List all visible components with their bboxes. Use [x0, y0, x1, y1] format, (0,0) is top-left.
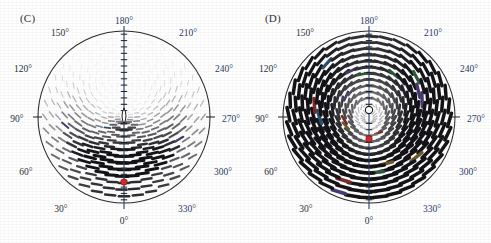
director-dash: [87, 166, 99, 169]
director-dash: [91, 92, 93, 96]
director-dash: [95, 137, 103, 139]
director-dash: [174, 114, 180, 119]
director-dash: [410, 86, 413, 98]
director-dash: [144, 101, 147, 104]
director-dash: [155, 64, 157, 68]
director-dash: [105, 146, 114, 147]
director-dash: [175, 137, 183, 142]
director-dash: [52, 155, 59, 159]
angle-tick-label: 60°: [19, 167, 33, 177]
director-dash: [105, 195, 115, 196]
polar-plot-c: 0°30°60°90°120°150°180°210°240°270°300°3…: [0, 0, 245, 243]
director-dash: [362, 113, 365, 116]
director-dash: [82, 121, 88, 125]
director-dash: [166, 124, 173, 128]
director-dash: [79, 160, 90, 163]
director-dash: [88, 51, 91, 55]
director-dash: [150, 142, 159, 144]
director-dash: [170, 176, 179, 179]
director-dash: [72, 54, 74, 58]
angle-tick-label: 270°: [467, 114, 485, 124]
director-dash: [130, 182, 140, 183]
director-dash: [179, 127, 186, 132]
director-dash: [59, 166, 67, 170]
director-dash: [49, 125, 54, 130]
polar-plot-d: 0°30°60°90°120°150°180°210°240°270°300°3…: [245, 0, 490, 243]
director-dash: [192, 92, 194, 97]
director-dash: [75, 121, 82, 126]
director-dash: [433, 89, 434, 103]
director-dash: [429, 99, 430, 113]
director-dash: [108, 155, 118, 156]
director-dash: [146, 191, 156, 193]
director-dash: [172, 61, 173, 66]
director-dash: [95, 98, 98, 102]
director-dash: [110, 51, 114, 53]
director-dash: [386, 106, 387, 114]
director-dash: [392, 104, 393, 113]
director-dash: [152, 127, 159, 130]
director-dash: [69, 124, 76, 129]
director-dash: [154, 106, 158, 109]
director-dash: [70, 66, 71, 71]
director-dash: [140, 157, 151, 159]
director-dash: [138, 85, 139, 89]
director-dash: [389, 99, 391, 107]
director-dash: [130, 106, 133, 107]
director-dash: [148, 133, 155, 135]
director-dash: [154, 120, 160, 123]
director-dash: [346, 104, 347, 113]
angle-tick-label: 30°: [54, 204, 68, 214]
director-dash: [379, 108, 380, 113]
angle-tick-label: 300°: [459, 167, 477, 177]
director-dash: [112, 109, 116, 110]
director-dash: [92, 162, 104, 164]
director-dash: [63, 64, 64, 69]
director-dash: [148, 94, 150, 98]
director-dash: [181, 81, 182, 86]
director-dash: [49, 112, 53, 117]
director-dash: [133, 51, 137, 53]
director-dash: [73, 96, 76, 102]
director-dash: [77, 166, 86, 169]
director-dash: [373, 196, 387, 197]
director-dash: [59, 137, 66, 141]
director-dash: [86, 98, 89, 102]
director-dash: [442, 97, 443, 111]
director-dash: [78, 58, 80, 62]
director-dash: [401, 49, 411, 56]
director-dash: [105, 106, 109, 108]
director-dash: [344, 92, 348, 100]
director-dash: [147, 106, 151, 109]
director-dash: [61, 92, 63, 97]
director-dash: [163, 70, 164, 75]
angle-tick-label: 0°: [120, 216, 129, 226]
director-dash: [109, 162, 120, 163]
director-dash: [339, 103, 340, 113]
director-dash: [95, 63, 97, 67]
director-dash: [187, 103, 190, 108]
director-dash: [298, 85, 299, 99]
director-dash: [302, 96, 303, 110]
director-dash: [76, 129, 84, 133]
director-dash: [96, 171, 108, 173]
angle-tick-label: 90°: [255, 114, 269, 124]
director-dash: [305, 85, 307, 99]
director-dash: [89, 111, 94, 114]
director-dash: [49, 87, 51, 93]
director-dash: [112, 44, 117, 45]
director-dash: [361, 127, 366, 128]
director-dash: [378, 49, 389, 52]
director-dash: [148, 113, 153, 115]
director-dash: [81, 64, 82, 69]
director-dash: [137, 103, 140, 105]
director-dash: [77, 88, 79, 93]
director-dash: [141, 113, 145, 114]
director-dash: [87, 68, 88, 73]
director-dash: [43, 114, 47, 119]
director-dash: [398, 105, 399, 115]
director-dash: [396, 99, 397, 108]
director-dash: [118, 83, 119, 87]
director-dash: [99, 131, 106, 132]
angle-tick-label: 270°: [222, 114, 240, 124]
